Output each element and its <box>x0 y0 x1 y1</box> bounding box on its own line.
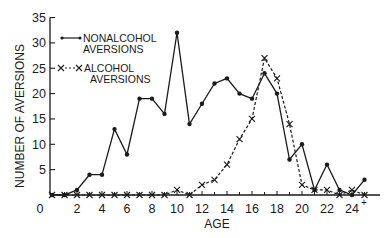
legend-alcohol-label-2: AVERSIONS <box>90 73 151 85</box>
dot-marker-icon <box>75 188 79 192</box>
dot-marker-icon <box>100 173 104 177</box>
dot-marker-icon <box>200 102 204 106</box>
y-tick-label: 25 <box>32 62 46 76</box>
y-axis: 5101520253035 <box>32 11 55 195</box>
dot-marker-icon <box>275 91 279 95</box>
dot-marker-icon <box>350 193 354 197</box>
x-tick-label: 16 <box>245 202 259 216</box>
y-tick-label: 10 <box>32 138 46 152</box>
legend: NONALCOHOL AVERSIONS ALCOHOL AVERSIONS <box>58 32 157 85</box>
dot-marker-icon <box>250 96 254 100</box>
x-marker-icon <box>299 182 305 188</box>
legend-nonalcohol-label-2: AVERSIONS <box>83 43 144 55</box>
y-tick-label: 15 <box>32 112 46 126</box>
x-tick-label: 18 <box>270 202 284 216</box>
dot-marker-icon <box>60 36 63 39</box>
x-marker-icon <box>76 65 82 71</box>
x-marker-icon <box>224 162 230 168</box>
dot-marker-icon <box>225 76 229 80</box>
x-marker-icon <box>199 182 205 188</box>
series-nonalcohol-aversions <box>50 31 367 198</box>
dot-marker-icon <box>150 96 154 100</box>
dot-marker-icon <box>300 142 304 146</box>
dot-marker-icon <box>78 36 81 39</box>
dot-marker-icon <box>62 193 66 197</box>
y-axis-title: NUMBER OF AVERSIONS <box>13 44 27 188</box>
x-tick-label: 0 <box>37 202 44 216</box>
dot-marker-icon <box>212 81 216 85</box>
x-tick-label: 24 <box>345 202 359 216</box>
x-marker-icon <box>274 75 280 81</box>
dot-marker-icon <box>237 91 241 95</box>
x-tick-label: 14 <box>220 202 234 216</box>
x-tick-label: 6 <box>124 202 131 216</box>
legend-alcohol: ALCOHOL AVERSIONS <box>58 62 151 85</box>
dot-marker-icon <box>325 162 329 166</box>
dot-marker-icon <box>175 31 179 35</box>
dot-marker-icon <box>287 157 291 161</box>
dot-marker-icon <box>187 122 191 126</box>
x-tick-label: 12 <box>195 202 209 216</box>
x-tick-label: 2 <box>74 202 81 216</box>
y-tick-label: 30 <box>32 36 46 50</box>
x-tick-label: 20 <box>295 202 309 216</box>
x-marker-icon <box>58 65 64 71</box>
dot-marker-icon <box>125 152 129 156</box>
dot-marker-icon <box>337 188 341 192</box>
x-tick-label: 8 <box>149 202 156 216</box>
x-tick-label-plus: + <box>361 197 367 208</box>
dot-marker-icon <box>50 193 54 197</box>
x-tick-label: 10 <box>170 202 184 216</box>
dot-marker-icon <box>362 178 366 182</box>
y-tick-label: 20 <box>32 87 46 101</box>
dot-marker-icon <box>262 71 266 75</box>
x-marker-icon <box>237 136 243 142</box>
aversions-by-age-chart: 5101520253035 024681012141618202224+ NON… <box>0 0 392 238</box>
dot-marker-icon <box>112 127 116 131</box>
y-tick-label: 5 <box>39 163 46 177</box>
x-tick-label: 4 <box>99 202 106 216</box>
x-tick-label: 22 <box>320 202 334 216</box>
dot-marker-icon <box>137 96 141 100</box>
dot-marker-icon <box>87 173 91 177</box>
x-axis-title: AGE <box>204 217 229 231</box>
legend-nonalcohol: NONALCOHOL AVERSIONS <box>60 32 156 55</box>
dot-marker-icon <box>312 188 316 192</box>
x-marker-icon <box>212 177 218 183</box>
y-tick-label: 35 <box>32 11 46 25</box>
dot-marker-icon <box>162 112 166 116</box>
